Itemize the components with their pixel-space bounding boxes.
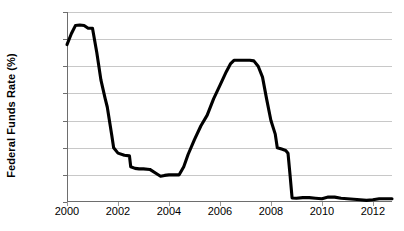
y-axis-title: Federal Funds Rate (%): [0, 0, 22, 231]
x-tick-label: 2002: [96, 206, 140, 217]
chart-container: Federal Funds Rate (%) 01234567 20002002…: [0, 0, 404, 231]
x-tick-label: 2012: [351, 206, 395, 217]
plot-area: 01234567 2000200220042006200820102012: [67, 12, 392, 202]
x-tick-label: 2006: [198, 206, 242, 217]
x-tick-label: 2010: [300, 206, 344, 217]
x-tick-label: 2000: [45, 206, 89, 217]
x-tick-label: 2004: [147, 206, 191, 217]
federal-funds-rate-line: [67, 25, 392, 200]
series-layer: [67, 12, 392, 202]
x-tick-label: 2008: [249, 206, 293, 217]
